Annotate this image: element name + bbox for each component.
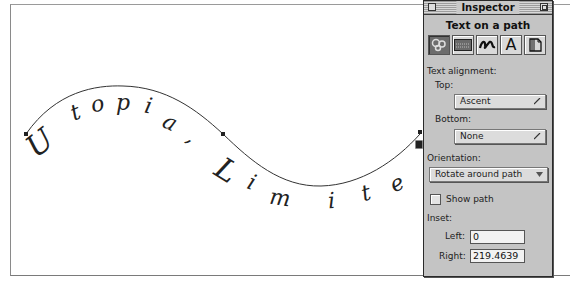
zoom-box-icon[interactable] — [540, 3, 548, 11]
bottom-label: Bottom: — [435, 114, 471, 124]
dropdown-triangle-icon — [536, 172, 543, 179]
orientation-label: Orientation: — [427, 153, 481, 163]
left-inset-field[interactable]: 0 — [470, 230, 525, 244]
close-box-icon[interactable] — [428, 3, 436, 11]
path-glyph: i — [143, 93, 155, 119]
path-glyph: m — [268, 184, 292, 212]
dropdown-arrow-icon — [534, 133, 541, 140]
bottom-alignment-value: None — [460, 131, 483, 141]
path-glyph: i — [327, 188, 336, 213]
inspector-heading: Text on a path — [424, 19, 552, 33]
left-inset-label: Left: — [445, 231, 465, 241]
orientation-select[interactable]: Rotate around path — [429, 167, 548, 182]
path-glyph: a — [159, 108, 182, 136]
paragraph-page-icon[interactable] — [524, 35, 546, 55]
inspector-panel: Inspector Text on a path A Text alignmen… — [423, 0, 553, 277]
text-alignment-label: Text alignment: — [427, 66, 497, 76]
show-path-checkbox[interactable] — [430, 194, 441, 205]
inset-label: Inset: — [427, 213, 452, 223]
anchor-point-mid[interactable] — [221, 132, 225, 136]
path-glyph: t — [66, 99, 84, 126]
anchor-point-start[interactable] — [24, 132, 28, 136]
right-inset-label: Right: — [439, 251, 466, 261]
dropdown-arrow-icon — [534, 98, 541, 105]
character-A-icon[interactable]: A — [500, 35, 522, 55]
orientation-value: Rotate around path — [435, 169, 522, 179]
inspector-tool-icons: A — [424, 35, 552, 55]
path-glyph: t — [358, 180, 374, 207]
show-path-label: Show path — [446, 194, 494, 204]
path-text-glyphs: Utopia,Limite — [19, 90, 408, 213]
path-glyph: U — [19, 120, 62, 164]
anchor-point-end[interactable] — [418, 130, 422, 134]
path-glyph: o — [88, 90, 106, 117]
stroke-squiggle-icon[interactable] — [476, 35, 498, 55]
top-alignment-value: Ascent — [460, 96, 491, 106]
top-alignment-select[interactable]: Ascent — [454, 94, 546, 109]
path-glyph: , — [182, 124, 202, 148]
fill-pattern-icon[interactable] — [452, 35, 474, 55]
path-glyph: L — [208, 149, 244, 190]
text-on-path-icon[interactable] — [428, 35, 450, 55]
inspector-titlebar[interactable]: Inspector — [424, 1, 552, 15]
path-glyph: i — [244, 169, 260, 195]
path-glyph: p — [116, 90, 130, 115]
path-glyph: e — [385, 169, 408, 197]
inspector-title: Inspector — [456, 1, 519, 14]
bottom-alignment-select[interactable]: None — [454, 129, 546, 144]
top-label: Top: — [435, 80, 453, 90]
right-inset-field[interactable]: 219.4639 — [470, 249, 525, 263]
text-overflow-handle[interactable] — [415, 140, 423, 149]
